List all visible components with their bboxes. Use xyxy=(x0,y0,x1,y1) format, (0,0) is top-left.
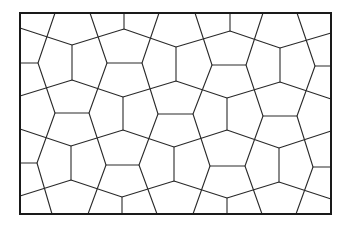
tiling-line xyxy=(20,28,331,48)
tiling-edges xyxy=(20,13,331,214)
cairo-tiling-diagram xyxy=(0,0,353,227)
tiling-line xyxy=(296,13,315,214)
tiling-line xyxy=(193,13,212,214)
tiling-line xyxy=(20,180,331,199)
tiling-line xyxy=(139,13,159,214)
tiling-line xyxy=(88,13,107,214)
tiling-line xyxy=(37,13,55,214)
tiling-line xyxy=(20,80,331,99)
tiling-line xyxy=(245,13,263,214)
tiling-line xyxy=(20,129,331,148)
